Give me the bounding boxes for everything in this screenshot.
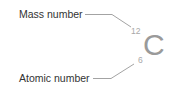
- atomic-number-label: Atomic number: [19, 73, 90, 84]
- mass-number-label: Mass number: [19, 9, 83, 20]
- element-symbol: C: [143, 30, 165, 60]
- atomic-number-leader-line: [93, 64, 134, 79]
- mass-number-value: 12: [131, 27, 140, 36]
- mass-number-leader-line: [85, 15, 131, 28]
